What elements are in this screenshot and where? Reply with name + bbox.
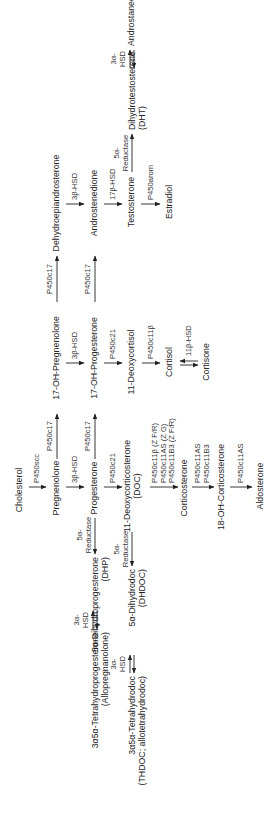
compound-cholesterol: Cholesterol (15, 468, 25, 513)
enzyme-3a-hsd-b: 3α- HSD (110, 656, 127, 672)
enzyme-p450c11b3-line: P450c11B3 (203, 443, 212, 483)
enzyme-3a-hsd-top: 3α- HSD (110, 51, 127, 67)
enzyme-p450c21-b: P450c21 (109, 329, 118, 359)
enzyme-3a-hsd-top-label: HSD (119, 51, 128, 67)
compound-11-deoxycortisol: 11-Deoxycortisol (127, 330, 137, 395)
enzyme-3b-hsd-b: 3β-HSD (71, 332, 80, 359)
compound-cortisol: Cortisol (165, 347, 175, 377)
enzyme-17b-hsd: 17β-HSD (109, 169, 118, 200)
compound-aldosterone: Aldosterone (256, 463, 266, 510)
enzyme-3a-hsd-a-label: HSD (82, 612, 91, 628)
enzyme-p450c17-b: P450c17 (46, 264, 55, 294)
enzyme-5a-reductase-b-label: Reductase (122, 531, 131, 567)
compound-cortisone: Cortisone (202, 343, 212, 381)
compound-dht-abbr: (DHT) (137, 51, 147, 130)
enzyme-11b-hsd: 11β-HSD (185, 325, 194, 356)
enzyme-3b-hsd-c: 3β-HSD (71, 173, 80, 200)
compound-17oh-pregnenolone: 17-OH-Pregnenolone (52, 316, 62, 400)
enzyme-p450c11as-b3: P450c11AS P450c11B3 (194, 443, 211, 483)
compound-androstanediol: Androstanediol (127, 0, 137, 46)
compound-testosterone: Testosterone (127, 177, 137, 227)
enzyme-5a-reductase-a: 5α- Reductase (76, 517, 93, 553)
compound-doc-abbr: (DOC) (132, 440, 142, 532)
steroidogenesis-diagram: Cholesterol Pregnenolone 17-OH-Pregnenol… (0, 0, 272, 814)
compound-thdoc: 3α5α-Tetrahydrodoc (THDOC; allotetrahydr… (128, 676, 147, 786)
enzyme-3b-hsd-a: 3β-HSD (71, 456, 80, 483)
compound-17oh-progesterone: 17-OH-Progesterone (90, 317, 100, 399)
compound-18oh-corticosterone: 18-OH-Corticosterone (217, 444, 227, 530)
compound-dhdoc-abbr: (DHDOC) (137, 569, 147, 626)
compound-doc: 11-Deoxycorticosterone (DOC) (123, 440, 142, 532)
enzyme-p450c11as: P450c11AS (237, 443, 246, 483)
enzyme-5a-reductase-top-label: Reductase (122, 135, 131, 171)
compound-allopregnanolone-alias: (Allopregnanolone) (100, 632, 110, 748)
enzyme-p450c11b3-zfr: P450c11B3 (Z F/R) (168, 418, 177, 483)
compound-progesterone: Progesterone (90, 462, 100, 515)
enzyme-p450c17-a: P450c17 (46, 421, 55, 451)
compound-corticosterone: Corticosterone (180, 459, 190, 516)
compound-estradiol: Estradiol (165, 185, 175, 219)
enzyme-3a-hsd-a: 3α- HSD (73, 612, 90, 628)
compound-dhdoc: 5α-Dihydrodoc (DHDOC) (128, 569, 147, 626)
compound-dht: Dihydrotestosterone (DHT) (128, 51, 147, 130)
enzyme-p450c21-a: P450c21 (109, 453, 118, 483)
compound-thdoc-alias: (THDOC; allotetrahydrodoc) (137, 676, 147, 786)
enzyme-3a-hsd-b-label: HSD (119, 656, 128, 672)
enzyme-p450c11-group: P450c11β (Z F/R) P450c11AS (Z G) P450c11… (151, 418, 177, 483)
enzyme-5a-reductase-top: 5α- Reductase (113, 135, 130, 171)
enzyme-p450c17-c: P450c17 (84, 421, 93, 451)
compound-androstenedione: Androstenedione (90, 170, 100, 237)
enzyme-p450c11b: P450c11β (147, 325, 156, 359)
compound-dhea: Dehydroepiandrosterone (52, 155, 62, 252)
enzyme-5a-reductase-b: 5α- Reductase (113, 531, 130, 567)
enzyme-5a-reductase-a-label: Reductase (85, 517, 94, 553)
enzyme-p450scc: P450scc (33, 454, 42, 483)
enzyme-p450c17-d: P450c17 (84, 264, 93, 294)
compound-pregnenolone: Pregnenolone (52, 461, 62, 516)
compound-allopregnanolone: 3α5α-Tetrahydroprogesterone (Allopregnan… (91, 632, 110, 748)
enzyme-p450arom: P450arom (147, 165, 156, 200)
